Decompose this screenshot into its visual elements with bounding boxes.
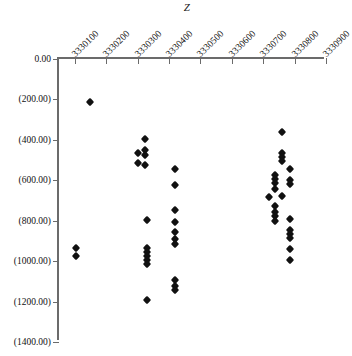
x-axis-tick: [75, 58, 76, 64]
x-axis-tick-label: 3330300: [132, 28, 163, 59]
data-point: [143, 295, 151, 303]
data-point: [86, 98, 94, 106]
y-axis-tick-label: (400.00): [19, 135, 51, 145]
data-point: [171, 205, 179, 213]
x-axis-tick: [138, 58, 139, 64]
data-point: [265, 193, 273, 201]
data-point: [171, 165, 179, 173]
y-axis-tick: [53, 302, 59, 303]
y-axis-tick: [53, 99, 59, 100]
x-axis-tick: [326, 58, 327, 64]
x-axis-tick-label: 3330700: [258, 28, 289, 59]
data-point: [271, 216, 279, 224]
data-point: [133, 159, 141, 167]
data-point: [286, 165, 294, 173]
y-axis-tick-label: (1400.00): [14, 337, 51, 347]
y-axis-tick: [53, 59, 59, 60]
data-point: [271, 185, 279, 193]
chart-root: Z 33301003330200333030033304003330500333…: [0, 0, 352, 356]
y-axis-tick-label: (600.00): [19, 175, 51, 185]
data-point: [143, 215, 151, 223]
y-axis-tick: [53, 140, 59, 141]
data-point: [278, 128, 286, 136]
y-axis-tick-label: 0.00: [34, 54, 51, 64]
y-axis-tick: [53, 180, 59, 181]
x-axis-tick-label: 3330400: [164, 28, 195, 59]
data-point: [171, 217, 179, 225]
y-axis-tick: [53, 342, 59, 343]
y-axis-tick-label: (200.00): [19, 94, 51, 104]
chart-title: Z: [0, 1, 352, 13]
y-axis-tick: [53, 221, 59, 222]
x-axis-tick-label: 3330500: [195, 28, 226, 59]
data-point: [286, 214, 294, 222]
y-axis-tick-label: (800.00): [19, 216, 51, 226]
x-axis-tick-label: 3330200: [101, 28, 132, 59]
x-axis-tick: [232, 58, 233, 64]
data-point: [141, 161, 149, 169]
x-axis-tick-label: 3330900: [321, 28, 352, 59]
x-axis-tick-label: 3330600: [227, 28, 258, 59]
data-point: [171, 286, 179, 294]
plot-area: 3330100333020033303003330400333050033306…: [57, 57, 324, 340]
y-axis-tick: [53, 261, 59, 262]
x-axis-tick-label: 3330100: [70, 28, 101, 59]
data-point: [72, 252, 80, 260]
data-point: [141, 151, 149, 159]
data-point: [72, 244, 80, 252]
data-point: [141, 135, 149, 143]
data-point: [278, 192, 286, 200]
data-point: [171, 240, 179, 248]
data-point: [286, 245, 294, 253]
data-point: [171, 181, 179, 189]
x-axis-tick: [169, 58, 170, 64]
y-axis-tick-label: (1200.00): [14, 297, 51, 307]
y-axis-tick-label: (1000.00): [14, 256, 51, 266]
x-axis-tick: [295, 58, 296, 64]
data-point: [286, 256, 294, 264]
x-axis-tick-label: 3330800: [290, 28, 321, 59]
